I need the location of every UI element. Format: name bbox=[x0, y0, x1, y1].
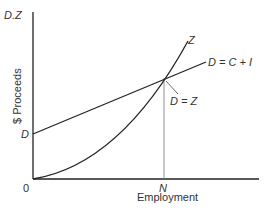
y-axis-title: $ Proceeds bbox=[11, 68, 23, 124]
origin-label: 0 bbox=[23, 182, 29, 194]
z-curve-label: Z bbox=[187, 34, 196, 46]
x-axis-title: Employment bbox=[137, 191, 198, 203]
y-axis-top-label: D.Z bbox=[4, 9, 23, 21]
intersection-label: D = Z bbox=[170, 95, 198, 107]
diagram-canvas: D.Z $ Proceeds D 0 N Employment Z D = C … bbox=[0, 0, 271, 211]
aggregate-supply-curve bbox=[33, 41, 188, 179]
d-line-label: D = C + I bbox=[208, 56, 252, 68]
d-intercept-label: D bbox=[21, 128, 29, 140]
keynesian-cross-diagram: D.Z $ Proceeds D 0 N Employment Z D = C … bbox=[0, 0, 271, 211]
intersection-pointer bbox=[166, 81, 178, 94]
